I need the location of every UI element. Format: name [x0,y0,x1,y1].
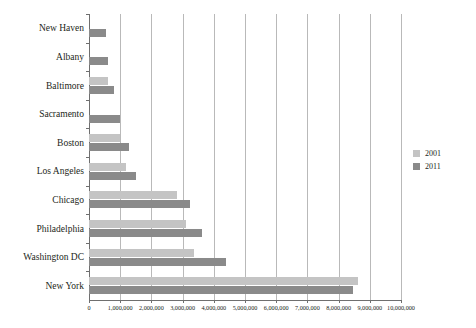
legend-swatch-icon [413,163,420,170]
y-axis-tick [86,71,89,72]
y-axis-tick [86,243,89,244]
y-axis-label: Los Angeles [0,166,84,176]
bar-2001 [89,220,186,228]
plot-area [89,14,401,300]
bar-group [89,100,401,129]
bar-group [89,128,401,157]
bar-2001 [89,134,120,142]
y-axis-label: New York [0,281,84,291]
bar-group [89,43,401,72]
bar-2001 [89,277,358,285]
legend-label: 2001 [425,149,441,158]
y-axis-label: Albany [0,52,84,62]
x-axis-tick-label: 10,000,000 [387,303,415,312]
x-axis-tick-label: 8,000,000 [326,303,351,312]
bar-2001 [89,249,194,257]
x-axis-labels: 01,000,0002,000,0003,000,0004,000,0005,0… [0,303,476,317]
legend-item: 2001 [413,147,473,160]
x-axis-tick-label: 6,000,000 [264,303,289,312]
legend-item: 2011 [413,160,473,173]
bar-2011 [89,172,136,180]
bar-chart: New HavenAlbanyBaltimoreSacramentoBoston… [0,0,476,328]
bar-2011 [89,57,108,65]
chart-legend: 20012011 [413,147,473,173]
y-axis-label: Chicago [0,195,84,205]
bar-group [89,14,401,43]
x-axis-tick [401,300,402,303]
bars [89,14,401,300]
bar-2001 [89,163,126,171]
x-axis-tick-label: 7,000,000 [295,303,320,312]
plot-right-edge [401,14,402,300]
y-axis-tick [86,157,89,158]
x-axis-tick [307,300,308,303]
x-axis-tick [370,300,371,303]
x-axis-tick [276,300,277,303]
bar-2011 [89,143,129,151]
bar-2011 [89,200,190,208]
y-axis-label: Sacramento [0,109,84,119]
y-axis-label: Washington DC [0,252,84,262]
x-axis-tick-label: 9,000,000 [357,303,382,312]
x-axis-tick [214,300,215,303]
x-axis-tick [339,300,340,303]
bar-2011 [89,29,106,37]
bar-group [89,243,401,272]
x-axis-tick-label: 1,000,000 [108,303,133,312]
x-axis-tick-label: 5,000,000 [233,303,258,312]
bar-2011 [89,286,353,294]
y-axis-label: Boston [0,138,84,148]
bar-2011 [89,86,114,94]
y-axis-tick [86,186,89,187]
y-axis-tick [86,214,89,215]
bar-2011 [89,229,202,237]
y-axis-tick [86,128,89,129]
y-axis-tick [86,14,89,15]
x-axis-tick [89,300,90,303]
legend-swatch-icon [413,150,420,157]
x-axis-tick [151,300,152,303]
bar-2011 [89,115,120,123]
x-axis-tick [120,300,121,303]
bar-group [89,71,401,100]
legend-label: 2011 [425,162,441,171]
bar-2011 [89,258,226,266]
y-axis-labels: New HavenAlbanyBaltimoreSacramentoBoston… [0,14,84,300]
y-axis-tick [86,100,89,101]
x-axis-tick [183,300,184,303]
bar-2001 [89,191,177,199]
x-axis-tick [245,300,246,303]
y-axis-label: Baltimore [0,81,84,91]
x-axis-tick-label: 0 [87,303,90,312]
x-axis-tick-label: 4,000,000 [201,303,226,312]
bar-2001 [89,77,108,85]
x-axis-tick-label: 3,000,000 [170,303,195,312]
bar-group [89,186,401,215]
x-axis-tick-label: 2,000,000 [139,303,164,312]
y-axis-label: Philadelphia [0,224,84,234]
y-axis-tick [86,43,89,44]
bar-group [89,271,401,300]
bar-group [89,214,401,243]
bar-group [89,157,401,186]
y-axis-label: New Haven [0,23,84,33]
y-axis-tick [86,271,89,272]
